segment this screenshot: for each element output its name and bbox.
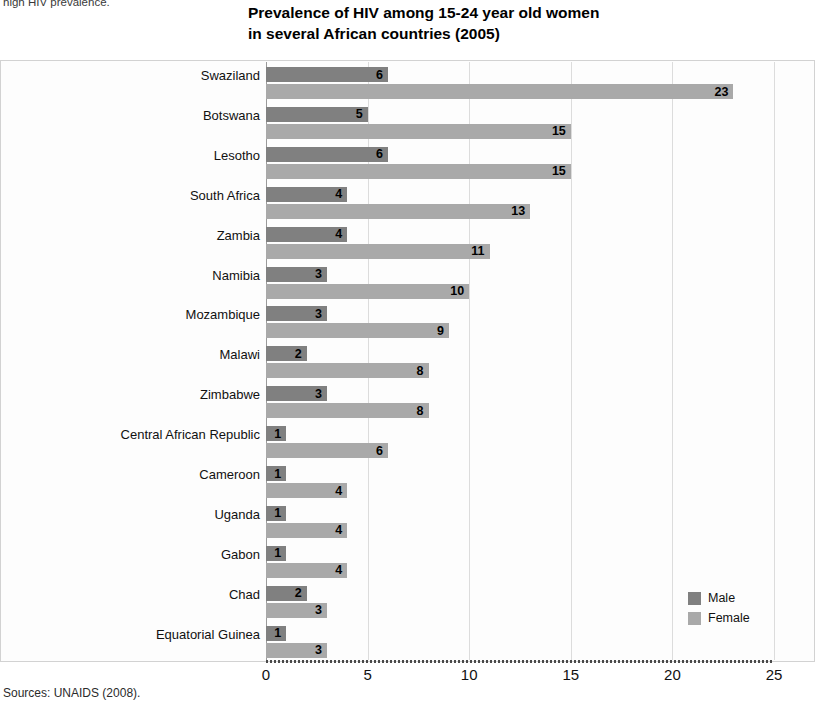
bar-value-label: 6 [376,68,383,81]
chart-title-line-1: Prevalence of HIV among 15-24 year old w… [248,2,768,23]
bar-group: 413 [266,186,774,224]
bar-female: 15 [266,164,571,179]
bar-male: 1 [266,546,286,561]
bar-value-label: 11 [471,245,484,258]
bar-group: 14 [266,545,774,583]
bar-value-label: 5 [356,108,363,121]
category-label-chad: Chad [10,587,260,602]
bar-value-label: 4 [335,564,342,577]
bar-female: 23 [266,84,733,99]
bar-value-label: 4 [335,524,342,537]
bar-group: 39 [266,305,774,343]
category-label-botswana: Botswana [10,108,260,123]
bar-male: 3 [266,267,327,282]
bar-value-label: 8 [417,365,424,378]
bar-male: 6 [266,147,388,162]
bar-female: 15 [266,124,571,139]
bar-female: 8 [266,403,429,418]
x-tick-label-0: 0 [262,666,270,683]
legend-swatch-male [688,592,701,605]
bar-male: 6 [266,67,388,82]
bar-group: 411 [266,226,774,264]
legend-item-female: Female [688,609,778,627]
legend-swatch-female [688,612,701,625]
category-label-equatorial-guinea: Equatorial Guinea [10,627,260,642]
bar-value-label: 4 [335,228,342,241]
bar-male: 4 [266,227,347,242]
bar-female: 9 [266,323,449,338]
bar-value-label: 3 [315,308,322,321]
bar-male: 1 [266,626,286,641]
bar-male: 1 [266,466,286,481]
bar-female: 8 [266,363,429,378]
bar-value-label: 4 [335,188,342,201]
bar-value-label: 6 [376,444,383,457]
bar-value-label: 8 [417,404,424,417]
y-axis-category-labels: SwazilandBotswanaLesothoSouth AfricaZamb… [8,62,260,660]
bar-group: 28 [266,345,774,383]
category-label-cameroon: Cameroon [10,467,260,482]
source-note: Sources: UNAIDS (2008). [3,686,140,700]
category-label-uganda: Uganda [10,507,260,522]
bar-male: 2 [266,346,307,361]
category-label-central-african-republic: Central African Republic [10,427,260,442]
bar-group: 615 [266,146,774,184]
category-label-gabon: Gabon [10,547,260,562]
plot-area: 623515615413411310392838161414142313 [266,62,774,660]
legend-label-female: Female [708,611,750,625]
category-label-mozambique: Mozambique [10,307,260,322]
bar-group: 310 [266,266,774,304]
x-tick-label-20: 20 [664,666,681,683]
x-axis-tick-labels: 0510152025 [266,666,774,690]
category-label-swaziland: Swaziland [10,68,260,83]
bar-female: 3 [266,643,327,658]
page-crop-caption: high HIV prevalence. [3,0,110,9]
bar-female: 3 [266,603,327,618]
bar-male: 3 [266,386,327,401]
bar-female: 11 [266,244,490,259]
category-label-zambia: Zambia [10,228,260,243]
bar-value-label: 1 [274,507,281,520]
x-tick-label-15: 15 [562,666,579,683]
chart-title-line-2: in several African countries (2005) [248,23,768,44]
legend-label-male: Male [708,591,735,605]
bar-value-label: 3 [315,387,322,400]
bar-value-label: 3 [315,604,322,617]
bar-value-label: 2 [295,587,302,600]
bar-male: 3 [266,306,327,321]
bar-female: 13 [266,204,530,219]
category-label-namibia: Namibia [10,268,260,283]
bar-value-label: 13 [511,205,525,218]
chart-legend: MaleFemale [688,589,778,629]
bar-value-label: 4 [335,484,342,497]
gridline-x-25 [774,62,775,660]
bar-female: 4 [266,483,347,498]
category-label-south-africa: South Africa [10,188,260,203]
bar-value-label: 6 [376,148,383,161]
bar-value-label: 1 [274,547,281,560]
bar-group: 14 [266,505,774,543]
bar-male: 1 [266,426,286,441]
bar-male: 4 [266,187,347,202]
bar-value-label: 3 [315,644,322,657]
bar-female: 6 [266,443,388,458]
bar-value-label: 3 [315,268,322,281]
x-tick-label-25: 25 [766,666,783,683]
bar-group: 14 [266,465,774,503]
x-tick-label-10: 10 [461,666,478,683]
bar-value-label: 15 [552,165,566,178]
bar-group: 623 [266,66,774,104]
bar-value-label: 23 [714,85,728,98]
bar-female: 10 [266,284,469,299]
bar-value-label: 1 [274,467,281,480]
bar-group: 16 [266,425,774,463]
chart-title: Prevalence of HIV among 15-24 year old w… [248,2,768,44]
bar-value-label: 1 [274,627,281,640]
bar-male: 1 [266,506,286,521]
bar-group: 38 [266,385,774,423]
bar-female: 4 [266,563,347,578]
bar-female: 4 [266,523,347,538]
category-label-malawi: Malawi [10,347,260,362]
bar-value-label: 2 [295,348,302,361]
bar-male: 2 [266,586,307,601]
